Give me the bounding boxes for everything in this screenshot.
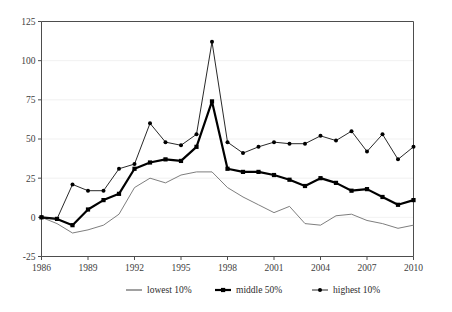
- data-point-middle-50-2008: [380, 195, 384, 199]
- data-point-middle-50-1988: [70, 223, 74, 227]
- data-point-middle-50-2006: [349, 189, 353, 193]
- data-point-highest-10-1998: [226, 140, 230, 144]
- data-point-highest-10-1992: [133, 162, 137, 166]
- x-axis-tick-labels: 198619891992199519982001200420072010: [32, 263, 423, 273]
- data-point-middle-50-1994: [163, 157, 167, 161]
- data-point-middle-50-2000: [256, 170, 260, 174]
- data-series-group: [39, 40, 415, 233]
- data-point-highest-10-1988: [71, 182, 75, 186]
- data-point-highest-10-2010: [412, 145, 416, 149]
- x-tick-label-2004: 2004: [311, 263, 330, 273]
- data-point-highest-10-1986: [40, 215, 44, 219]
- axis-ticks: [38, 22, 414, 261]
- data-point-middle-50-2004: [318, 176, 322, 180]
- data-point-middle-50-2003: [303, 184, 307, 188]
- data-point-middle-50-1990: [101, 198, 105, 202]
- legend-item-lowest-10[interactable]: lowest 10%: [126, 285, 192, 295]
- legend-item-highest-10[interactable]: highest 10%: [312, 285, 380, 295]
- chart-legend: lowest 10%middle 50%highest 10%: [126, 285, 380, 295]
- data-point-highest-10-1990: [102, 189, 106, 193]
- data-point-highest-10-2002: [288, 142, 292, 146]
- legend-label-lowest-10: lowest 10%: [147, 285, 192, 295]
- y-tick-label-75: 75: [26, 95, 36, 105]
- data-point-highest-10-2004: [319, 134, 323, 138]
- data-point-middle-50-1995: [179, 159, 183, 163]
- y-tick-label-100: 100: [21, 56, 36, 66]
- data-point-middle-50-1999: [241, 170, 245, 174]
- x-tick-label-2007: 2007: [358, 263, 377, 273]
- x-tick-label-2001: 2001: [265, 263, 284, 273]
- data-point-highest-10-1987: [55, 217, 59, 221]
- data-point-middle-50-1991: [117, 192, 121, 196]
- data-point-middle-50-1998: [225, 167, 229, 171]
- x-tick-label-1989: 1989: [79, 263, 98, 273]
- line-chart: -250255075100125 19861989199219951998200…: [0, 0, 452, 312]
- legend-label-highest-10: highest 10%: [333, 285, 380, 295]
- data-point-highest-10-1999: [241, 151, 245, 155]
- y-tick-label-0: 0: [31, 213, 36, 223]
- data-point-highest-10-2007: [365, 150, 369, 154]
- data-point-middle-50-2007: [365, 187, 369, 191]
- data-point-highest-10-2006: [350, 129, 354, 133]
- data-point-middle-50-2010: [411, 198, 415, 202]
- data-point-middle-50-2002: [287, 178, 291, 182]
- data-point-middle-50-1989: [86, 207, 90, 211]
- x-tick-label-1986: 1986: [32, 263, 51, 273]
- legend-marker-highest-10: [318, 288, 322, 292]
- y-tick-label-25: 25: [26, 174, 36, 184]
- data-point-middle-50-2001: [272, 173, 276, 177]
- y-axis-tick-labels: -250255075100125: [21, 17, 36, 262]
- data-point-middle-50-2005: [334, 181, 338, 185]
- y-tick-label--25: -25: [23, 252, 36, 262]
- series-line-highest-10: [42, 42, 414, 219]
- data-point-highest-10-1996: [195, 132, 199, 136]
- legend-item-middle-50[interactable]: middle 50%: [215, 285, 282, 295]
- x-tick-label-1995: 1995: [172, 263, 191, 273]
- data-point-highest-10-2003: [303, 142, 307, 146]
- y-tick-label-125: 125: [21, 17, 36, 27]
- x-tick-label-2010: 2010: [404, 263, 423, 273]
- data-point-highest-10-1995: [179, 143, 183, 147]
- legend-marker-middle-50: [221, 288, 225, 292]
- y-tick-label-50: 50: [26, 134, 36, 144]
- data-point-highest-10-2005: [334, 139, 338, 143]
- data-point-middle-50-1993: [148, 160, 152, 164]
- chart-container: -250255075100125 19861989199219951998200…: [0, 0, 452, 312]
- data-point-highest-10-1994: [164, 140, 168, 144]
- series-line-middle-50: [42, 101, 414, 225]
- data-point-highest-10-1989: [86, 189, 90, 193]
- data-point-middle-50-1996: [194, 145, 198, 149]
- legend-label-middle-50: middle 50%: [236, 285, 282, 295]
- data-point-highest-10-2008: [381, 132, 385, 136]
- data-point-highest-10-2009: [396, 157, 400, 161]
- x-tick-label-1992: 1992: [125, 263, 144, 273]
- data-point-highest-10-2000: [257, 145, 261, 149]
- series-line-lowest-10: [42, 172, 414, 233]
- data-point-highest-10-2001: [272, 140, 276, 144]
- data-point-highest-10-1993: [148, 121, 152, 125]
- data-point-highest-10-1991: [117, 167, 121, 171]
- data-point-middle-50-2009: [396, 203, 400, 207]
- data-point-highest-10-1997: [210, 40, 214, 44]
- data-point-middle-50-1992: [132, 167, 136, 171]
- data-point-middle-50-1997: [210, 99, 214, 103]
- x-tick-label-1998: 1998: [218, 263, 237, 273]
